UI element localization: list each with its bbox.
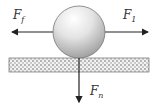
applied-force-label: F1 (123, 9, 136, 24)
ball (53, 6, 105, 58)
normal-force-label: Fn (90, 85, 103, 100)
friction-force-label: Ff (13, 9, 24, 24)
